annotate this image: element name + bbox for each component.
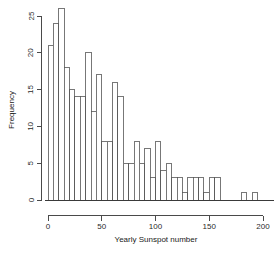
histogram-bar	[102, 141, 107, 200]
histogram-plot: 0510152025 050100150200 Yearly Sunspot n…	[0, 0, 280, 255]
histogram-bar	[204, 193, 209, 200]
histogram-bar	[156, 141, 161, 200]
histogram-bar	[242, 193, 247, 200]
histogram-bar	[172, 178, 177, 200]
histogram-bar	[161, 171, 166, 200]
histogram-bar	[86, 53, 91, 200]
histogram-bar	[166, 163, 171, 200]
histogram-bar	[91, 112, 96, 200]
y-axis-tick-label: 10	[27, 121, 36, 130]
x-axis-tick-label: 200	[256, 222, 270, 231]
x-axis-title: Yearly Sunspot number	[115, 235, 198, 244]
histogram-bar	[182, 193, 187, 200]
histogram-bar	[64, 68, 69, 200]
histogram-bar	[193, 178, 198, 200]
histogram-bar	[199, 178, 204, 200]
x-axis-tick-label: 150	[203, 222, 217, 231]
x-axis-tick-label: 0	[46, 222, 51, 231]
histogram-bar	[59, 9, 64, 200]
histogram-bar	[113, 82, 118, 200]
histogram-bar	[96, 75, 101, 200]
histogram-bar	[107, 141, 112, 200]
histogram-bar	[48, 45, 53, 200]
histogram-bar	[209, 178, 214, 200]
x-axis-tick-label: 100	[149, 222, 163, 231]
histogram-bar	[118, 97, 123, 200]
histogram-bar	[150, 178, 155, 200]
histogram-bar	[134, 141, 139, 200]
histogram-canvas: 0510152025 050100150200 Yearly Sunspot n…	[0, 0, 280, 255]
y-axis-tick-label: 5	[27, 160, 36, 165]
histogram-bar	[188, 178, 193, 200]
histogram-bar	[53, 23, 58, 200]
histogram-bar	[80, 97, 85, 200]
histogram-bar	[177, 178, 182, 200]
histogram-bar	[70, 90, 75, 200]
histogram-bar	[252, 193, 257, 200]
histogram-bar	[75, 97, 80, 200]
y-axis-tick-label: 25	[27, 11, 36, 20]
histogram-bar	[129, 163, 134, 200]
y-axis-title: Frequency	[7, 91, 16, 129]
y-axis-tick-label: 15	[27, 85, 36, 94]
y-axis: 0510152025	[27, 11, 42, 202]
histogram-bars	[48, 9, 258, 200]
x-axis: 050100150200	[46, 216, 270, 232]
histogram-bar	[215, 178, 220, 200]
histogram-bar	[123, 163, 128, 200]
y-axis-tick-label: 0	[27, 197, 36, 202]
histogram-bar	[139, 163, 144, 200]
histogram-bar	[145, 148, 150, 200]
x-axis-tick-label: 50	[97, 222, 106, 231]
y-axis-tick-label: 20	[27, 48, 36, 57]
